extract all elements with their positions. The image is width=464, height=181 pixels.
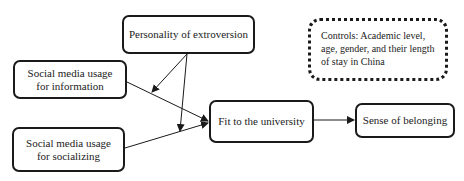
node-belonging: Sense of belonging (355, 103, 455, 138)
node-extroversion: Personality of extroversion (122, 15, 255, 54)
node-fit: Fit to the university (209, 100, 314, 143)
edge-socializing-to-fit (125, 123, 208, 148)
edge-info-to-fit (127, 82, 208, 121)
node-belonging-label: Sense of belonging (363, 114, 447, 127)
controls-text: Controls: Academic level, age, gender, a… (321, 30, 434, 67)
controls-box: Controls: Academic level, age, gender, a… (308, 18, 448, 81)
node-socializing-line1: Social media usage (26, 137, 111, 150)
node-info: Social media usage for information (13, 60, 127, 99)
diagram-canvas: Personality of extroversion Social media… (0, 0, 464, 181)
node-fit-label: Fit to the university (218, 115, 304, 128)
edge-moderation-info (152, 54, 187, 92)
node-socializing: Social media usage for socializing (12, 127, 125, 172)
node-socializing-line2: for socializing (37, 150, 100, 163)
node-extroversion-label: Personality of extroversion (129, 28, 248, 41)
node-info-line1: Social media usage (28, 67, 113, 80)
edge-moderation-socializing (180, 54, 187, 131)
node-info-line2: for information (36, 80, 104, 93)
